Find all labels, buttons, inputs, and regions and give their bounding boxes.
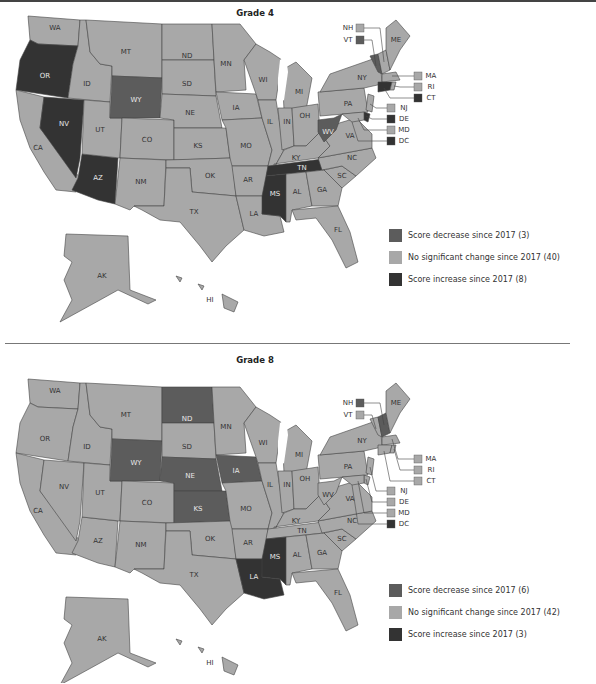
state-label-sc: SC xyxy=(337,172,346,180)
callout-label-ri: RI xyxy=(428,466,435,474)
state-label-la: LA xyxy=(250,573,259,581)
state-label-nv: NV xyxy=(59,120,69,128)
state-label-wv: WV xyxy=(322,491,334,499)
state-de xyxy=(364,112,370,122)
callout-label-nh: NH xyxy=(343,24,354,32)
callout-swatch-nj xyxy=(387,487,395,495)
state-or xyxy=(16,403,78,461)
state-label-wa: WA xyxy=(49,24,61,32)
state-label-sd: SD xyxy=(182,80,192,88)
state-md xyxy=(342,112,364,122)
state-label-oh: OH xyxy=(300,475,311,483)
state-label-ut: UT xyxy=(95,126,105,134)
callout-swatch-de xyxy=(387,498,395,506)
callout-swatch-md xyxy=(387,126,395,134)
state-label-mo: MO xyxy=(240,142,252,150)
callout-swatch-ma xyxy=(414,455,422,463)
grade-8-panel: Grade 8 WAORCAIDNVAZUTMTWYCONMNDSDNEKSOK… xyxy=(0,343,596,683)
state-wi xyxy=(244,44,282,100)
state-label-ky: KY xyxy=(292,517,301,525)
state-label-mn: MN xyxy=(220,60,231,68)
state-label-va: VA xyxy=(345,132,354,140)
callout-label-ma: MA xyxy=(426,72,437,80)
state-sd xyxy=(162,60,216,96)
state-label-ne: NE xyxy=(185,109,195,117)
state-label-ms: MS xyxy=(270,553,281,561)
state-ct xyxy=(378,445,392,455)
state-label-id: ID xyxy=(83,80,90,88)
legend-item-no-change: No significant change since 2017 (40) xyxy=(389,246,560,268)
state-label-ms: MS xyxy=(270,190,281,198)
callout-swatch-ct xyxy=(414,477,422,485)
decrease-swatch xyxy=(389,229,402,242)
callout-label-ri: RI xyxy=(428,83,435,91)
state-label-sc: SC xyxy=(337,535,346,543)
state-label-co: CO xyxy=(142,136,153,144)
callout-label-md: MD xyxy=(398,509,409,517)
state-label-sd: SD xyxy=(182,443,192,451)
callout-swatch-nj xyxy=(387,104,395,112)
no-change-swatch xyxy=(389,251,402,264)
state-label-tn: TN xyxy=(296,164,307,172)
state-label-ut: UT xyxy=(95,489,105,497)
state-ak xyxy=(60,597,156,683)
grade-8-legend: Score decrease since 2017 (6) No signifi… xyxy=(389,579,560,645)
callout-swatch-ri xyxy=(414,466,422,474)
increase-swatch xyxy=(389,273,402,286)
state-ct xyxy=(378,82,392,92)
state-label-mo: MO xyxy=(240,505,252,513)
state-label-az: AZ xyxy=(93,174,103,182)
callout-label-ct: CT xyxy=(426,94,436,102)
no-change-swatch xyxy=(389,606,402,619)
state-label-me: ME xyxy=(391,36,401,44)
state-label-or: OR xyxy=(40,72,51,80)
state-label-ks: KS xyxy=(193,505,203,513)
callout-swatch-dc xyxy=(387,137,395,145)
state-label-wi: WI xyxy=(259,439,268,447)
state-or xyxy=(16,40,78,98)
state-ak xyxy=(60,234,156,322)
state-label-nm: NM xyxy=(135,178,146,186)
state-label-ak: AK xyxy=(97,272,107,280)
state-label-va: VA xyxy=(345,495,354,503)
state-label-ca: CA xyxy=(33,144,43,152)
state-label-mi: MI xyxy=(295,451,303,459)
state-label-in: IN xyxy=(283,118,290,126)
callout-swatch-ma xyxy=(414,72,422,80)
decrease-swatch xyxy=(389,584,402,597)
state-label-wy: WY xyxy=(130,459,142,467)
state-ma xyxy=(382,72,400,82)
state-label-or: OR xyxy=(40,435,51,443)
state-label-ca: CA xyxy=(33,507,43,515)
state-fl xyxy=(292,206,358,268)
callout-label-ma: MA xyxy=(426,455,437,463)
state-label-mi: MI xyxy=(295,88,303,96)
grade-4-panel: Grade 4 WAORCAIDNVAZUTMTWYCONMNDSDNEKSOK… xyxy=(0,0,596,340)
state-label-me: ME xyxy=(391,399,401,407)
state-label-al: AL xyxy=(293,188,302,196)
state-label-nc: NC xyxy=(347,154,357,162)
state-hi xyxy=(176,639,238,675)
state-label-in: IN xyxy=(283,481,290,489)
state-label-il: IL xyxy=(267,481,273,489)
state-label-nd: ND xyxy=(182,415,193,423)
legend-item-decrease: Score decrease since 2017 (6) xyxy=(389,579,560,601)
state-label-mt: MT xyxy=(121,411,132,419)
callout-swatch-ct xyxy=(414,94,422,102)
state-label-wa: WA xyxy=(49,387,61,395)
legend-item-decrease: Score decrease since 2017 (3) xyxy=(389,224,560,246)
state-label-ky: KY xyxy=(292,154,301,162)
state-label-tx: TX xyxy=(188,571,198,579)
state-label-nv: NV xyxy=(59,483,69,491)
callout-swatch-nh xyxy=(356,399,364,407)
state-label-nm: NM xyxy=(135,541,146,549)
state-label-ks: KS xyxy=(193,142,203,150)
state-label-mt: MT xyxy=(121,48,132,56)
state-label-hi: HI xyxy=(206,296,213,304)
state-fl xyxy=(292,569,358,631)
callout-label-de: DE xyxy=(399,115,409,123)
callout-swatch-dc xyxy=(387,520,395,528)
state-label-tn: TN xyxy=(296,527,307,535)
state-label-fl: FL xyxy=(334,589,342,597)
callout-leader-ri xyxy=(394,449,414,470)
